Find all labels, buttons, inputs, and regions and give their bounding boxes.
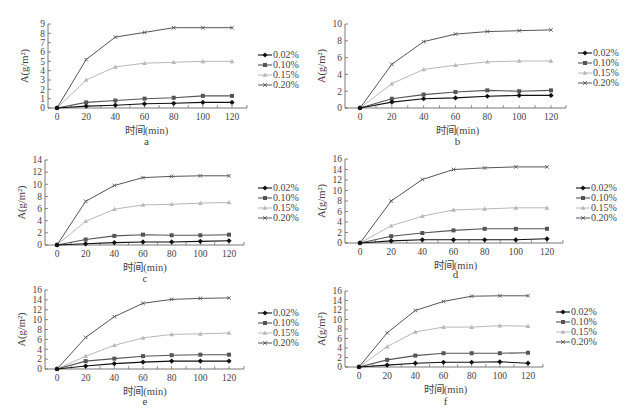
diamond-marker-icon — [142, 101, 147, 106]
diamond-marker-icon — [441, 360, 446, 365]
y-tick-label: 6 — [337, 334, 342, 344]
y-tick-label: 12 — [333, 305, 343, 315]
figure-canvas: 0123456789A(g/m²)020406080100120时间(min)a… — [0, 0, 627, 420]
cross-marker-icon — [113, 315, 117, 319]
x-tick-label: 60 — [449, 247, 459, 257]
y-axis-title: A(g/m²) — [316, 311, 328, 346]
x-tick-label: 120 — [521, 371, 536, 381]
y-axis-title: A(g/m²) — [16, 185, 28, 220]
diamond-marker-icon — [198, 239, 203, 244]
legend-label: 0.20% — [593, 77, 619, 88]
x-tick-label: 80 — [483, 112, 493, 122]
square-marker-icon — [514, 227, 518, 231]
square-marker-icon — [470, 351, 474, 355]
diamond-marker-icon — [113, 103, 118, 108]
y-tick-label: 5 — [40, 57, 45, 67]
square-marker-icon — [442, 351, 446, 355]
x-tick-label: 80 — [167, 249, 177, 259]
y-tick-label: 10 — [33, 180, 43, 190]
diamond-marker-icon — [413, 361, 418, 366]
x-tick-label: 40 — [418, 247, 428, 257]
y-tick-label: 0 — [337, 362, 342, 372]
diamond-marker-icon — [140, 239, 145, 244]
square-marker-icon — [561, 320, 565, 324]
square-marker-icon — [170, 353, 174, 357]
diamond-marker-icon — [112, 240, 117, 245]
series-0-15pct — [55, 331, 232, 371]
x-tick-label: 80 — [169, 112, 179, 122]
diamond-marker-icon — [262, 310, 267, 315]
square-marker-icon — [198, 353, 202, 357]
x-axis: 020406080100120时间(min) — [345, 105, 566, 137]
plot-area — [54, 296, 231, 372]
series-0-02pct — [54, 359, 231, 372]
x-tick-label: 40 — [411, 371, 421, 381]
legend: 0.02%0.10%0.15%0.20% — [258, 49, 299, 90]
diamond-marker-icon — [226, 238, 231, 243]
plot-area — [356, 294, 530, 370]
legend: 0.02%0.10%0.15%0.20% — [576, 182, 617, 223]
diamond-marker-icon — [544, 236, 549, 241]
chart-panel-d: 0246810121416A(g/m²)020406080100120时间(mi… — [316, 154, 617, 280]
diamond-marker-icon — [83, 363, 88, 368]
square-marker-icon — [549, 88, 553, 92]
square-marker-icon — [201, 94, 205, 98]
diamond-marker-icon — [525, 361, 530, 366]
y-tick-label: 8 — [337, 36, 342, 46]
diamond-marker-icon — [485, 94, 490, 99]
y-tick-label: 2 — [337, 87, 342, 97]
square-marker-icon — [227, 353, 231, 357]
x-tick-label: 100 — [512, 112, 527, 122]
x-tick-label: 60 — [140, 112, 150, 122]
diamond-marker-icon — [171, 101, 176, 106]
y-tick-label: 4 — [37, 345, 42, 355]
y-tick-label: 0 — [37, 364, 42, 374]
legend-label: 0.20% — [273, 212, 299, 223]
x-tick-label: 20 — [81, 373, 91, 383]
diamond-marker-icon — [469, 360, 474, 365]
y-axis-title: A(g/m²) — [316, 48, 328, 83]
x-tick-label: 20 — [387, 112, 397, 122]
diamond-marker-icon — [582, 50, 587, 55]
panel-sub-label: f — [444, 395, 448, 407]
x-tick-label: 0 — [55, 373, 60, 383]
legend: 0.02%0.10%0.15%0.20% — [258, 307, 299, 348]
y-axis: 0246810A(g/m²) — [316, 19, 348, 113]
chart-panel-e: 0246810121416A(g/m²)020406080100120时间(mi… — [16, 285, 299, 407]
cross-marker-icon — [385, 331, 389, 335]
square-marker-icon — [84, 359, 88, 363]
chart-panel-f: 0246810121416A(g/m²)020406080100120时间(mi… — [316, 286, 597, 407]
series-0-15pct — [358, 59, 554, 110]
y-axis: 0246810121416A(g/m²) — [316, 154, 348, 248]
square-marker-icon — [112, 234, 116, 238]
diamond-marker-icon — [140, 359, 145, 364]
y-tick-label: 0 — [337, 103, 342, 113]
square-marker-icon — [422, 93, 426, 97]
square-marker-icon — [172, 96, 176, 100]
legend-label: 0.20% — [571, 336, 597, 347]
legend-item: 0.20% — [258, 337, 299, 348]
x-tick-label: 0 — [55, 112, 60, 122]
legend-item: 0.20% — [576, 212, 617, 223]
y-tick-label: 6 — [40, 47, 45, 57]
square-marker-icon — [198, 233, 202, 237]
y-tick-label: 6 — [37, 204, 42, 214]
x-tick-label: 20 — [382, 371, 392, 381]
series-0-20pct — [357, 294, 530, 369]
square-marker-icon — [454, 90, 458, 94]
y-tick-label: 6 — [337, 53, 342, 63]
cross-marker-icon — [390, 63, 394, 67]
y-tick-label: 2 — [337, 228, 342, 238]
x-tick-label: 40 — [110, 249, 120, 259]
diamond-marker-icon — [169, 239, 174, 244]
diamond-marker-icon — [451, 237, 456, 242]
legend-label: 0.20% — [273, 79, 299, 90]
diamond-marker-icon — [482, 237, 487, 242]
y-tick-label: 10 — [33, 315, 43, 325]
legend: 0.02%0.10%0.15%0.20% — [258, 182, 299, 223]
diamond-marker-icon — [497, 359, 502, 364]
square-marker-icon — [263, 321, 267, 325]
x-tick-label: 80 — [167, 373, 177, 383]
legend: 0.02%0.10%0.15%0.20% — [556, 306, 597, 347]
y-tick-label: 10 — [333, 19, 343, 29]
